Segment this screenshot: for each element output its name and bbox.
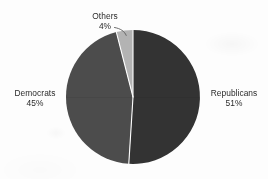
pie-slice-republicans[interactable] (129, 30, 200, 164)
slice-label-others-name: Others (92, 11, 117, 21)
slice-label-republicans-percent: 51% (202, 98, 266, 108)
slice-label-democrats: Democrats 45% (2, 88, 68, 109)
slice-label-democrats-percent: 45% (2, 98, 68, 108)
slice-label-republicans: Republicans 51% (202, 88, 266, 109)
slice-label-republicans-name: Republicans (211, 88, 258, 98)
slice-label-others: Others 4% (76, 11, 134, 32)
slice-label-others-percent: 4% (76, 21, 134, 31)
pie-chart-figure: Others 4% Democrats 45% Republicans 51% (0, 0, 268, 179)
slice-label-democrats-name: Democrats (15, 88, 56, 98)
